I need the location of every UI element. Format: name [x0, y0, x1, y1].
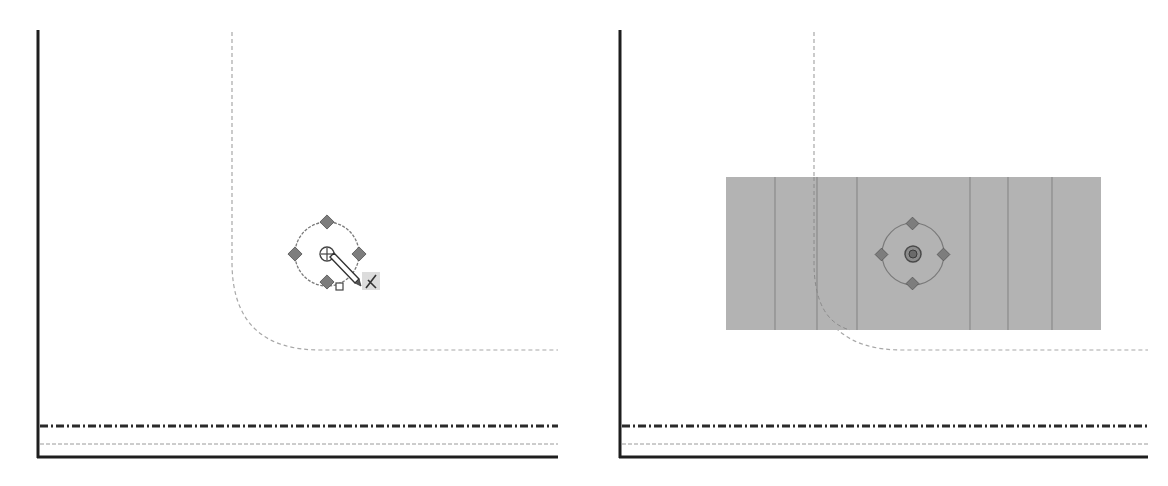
rotate-handle-top — [320, 215, 334, 229]
canvas-svg — [0, 0, 584, 486]
wall-outline — [37, 30, 558, 458]
drawing-canvas-after[interactable] — [584, 0, 1168, 486]
snap-indicator-icon — [362, 272, 380, 290]
rotate-handle-right — [352, 247, 366, 261]
rounded-guide-path — [232, 32, 558, 350]
insert-point-square-icon — [336, 283, 343, 290]
canvas-svg — [584, 0, 1168, 486]
rotate-handle-bottom — [320, 275, 334, 289]
drawing-canvas-before[interactable] — [0, 0, 584, 486]
rotate-handle-left — [288, 247, 302, 261]
